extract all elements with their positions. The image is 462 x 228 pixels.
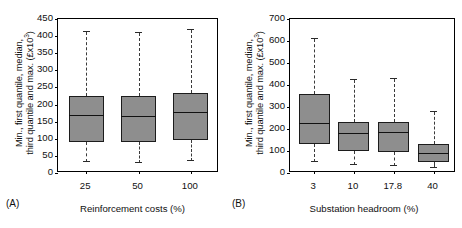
y-axis-tick-label: 250 — [37, 81, 53, 91]
y-axis-tick-mark — [287, 151, 290, 152]
y-axis-tick-mark — [287, 19, 290, 20]
x-axis-tick-mark — [191, 171, 192, 174]
panel-label: (B) — [232, 199, 245, 209]
whisker-upper — [354, 80, 355, 122]
boxplot-100 — [173, 17, 208, 171]
y-axis-tick-label: 600 — [269, 35, 285, 45]
whisker-cap-max — [83, 31, 90, 32]
x-axis-tick-label: 100 — [165, 181, 215, 191]
boxplot-17.8 — [378, 17, 409, 171]
y-axis-tick-mark — [55, 105, 58, 106]
boxplot-3 — [299, 17, 330, 171]
whisker-upper — [394, 79, 395, 122]
y-axis-tick-mark — [55, 87, 58, 88]
box-iqr — [299, 94, 330, 144]
x-axis-tick-mark — [394, 171, 395, 174]
plot-area — [289, 18, 455, 172]
boxplot-10 — [338, 17, 369, 171]
x-axis-tick-mark — [139, 171, 140, 174]
y-axis-tick-label: 0 — [280, 167, 285, 177]
y-axis-tick-mark — [55, 173, 58, 174]
median-line — [299, 123, 330, 124]
whisker-cap-max — [311, 38, 318, 39]
whisker-lower — [314, 144, 315, 162]
whisker-upper — [191, 30, 192, 93]
y-axis-tick-mark — [287, 129, 290, 130]
whisker-lower — [394, 152, 395, 167]
median-line — [173, 112, 208, 113]
y-axis-tick-label: 0 — [48, 167, 53, 177]
whisker-cap-min — [311, 161, 318, 162]
x-axis-tick-mark — [434, 171, 435, 174]
y-axis-title-line1: Min., first quantile, median, — [14, 39, 24, 147]
y-axis-tick-mark — [55, 36, 58, 37]
box-iqr — [338, 122, 369, 152]
y-axis-tick-label: 700 — [269, 13, 285, 23]
whisker-cap-min — [390, 165, 397, 166]
y-axis-tick-label: 100 — [37, 133, 53, 143]
whisker-cap-max — [135, 32, 142, 33]
y-axis-tick-label: 300 — [269, 101, 285, 111]
y-axis-tick-label: 400 — [37, 30, 53, 40]
whisker-upper — [314, 39, 315, 94]
y-axis-tick-mark — [55, 70, 58, 71]
x-axis-tick-mark — [314, 171, 315, 174]
x-axis-title: Reinforcement costs (%) — [40, 203, 225, 214]
median-line — [418, 153, 449, 154]
y-axis-tick-labels: 7006005004003002001000 — [260, 18, 285, 172]
x-axis-tick-mark — [354, 171, 355, 174]
box-iqr — [69, 96, 104, 142]
whisker-cap-min — [83, 161, 90, 162]
whisker-lower — [86, 142, 87, 163]
median-line — [338, 133, 369, 134]
y-axis-tick-label: 200 — [37, 99, 53, 109]
whisker-lower — [354, 151, 355, 165]
whisker-cap-min — [430, 167, 437, 168]
y-axis-tick-label: 300 — [37, 64, 53, 74]
panel-a: Min., first quantile, median,third quant… — [0, 0, 231, 228]
boxplot-40 — [418, 17, 449, 171]
x-axis-tick-mark — [86, 171, 87, 174]
y-axis-tick-mark — [55, 53, 58, 54]
whisker-cap-max — [187, 29, 194, 30]
boxplot-25 — [69, 17, 104, 171]
y-axis-tick-label: 50 — [42, 150, 53, 160]
y-axis-tick-mark — [55, 122, 58, 123]
y-axis-tick-mark — [55, 156, 58, 157]
y-axis-tick-mark — [287, 63, 290, 64]
y-axis-tick-label: 350 — [37, 47, 53, 57]
y-axis-tick-label: 400 — [269, 79, 285, 89]
whisker-cap-min — [187, 160, 194, 161]
whisker-cap-min — [135, 162, 142, 163]
whisker-lower — [139, 142, 140, 164]
y-axis-tick-mark — [55, 19, 58, 20]
y-axis-tick-label: 150 — [37, 116, 53, 126]
boxplot-figure: Min., first quantile, median,third quant… — [0, 0, 462, 228]
y-axis-tick-label: 450 — [37, 13, 53, 23]
box-iqr — [378, 122, 409, 152]
whisker-upper — [86, 32, 87, 96]
y-axis-tick-mark — [287, 107, 290, 108]
x-axis-title: Substation headroom (%) — [269, 203, 459, 214]
x-axis-tick-label: 50 — [113, 181, 163, 191]
y-axis-tick-mark — [287, 173, 290, 174]
panel-b: Min., first quantile, median,third quant… — [231, 0, 462, 228]
whisker-lower — [191, 140, 192, 161]
whisker-upper — [434, 112, 435, 143]
y-axis-tick-mark — [55, 139, 58, 140]
boxplot-50 — [121, 17, 156, 171]
median-line — [378, 132, 409, 133]
y-axis-tick-labels: 450400350300250200150100500 — [28, 18, 53, 172]
plot-area — [57, 18, 218, 172]
y-axis-title-line1: Min., first quantile, median, — [244, 39, 254, 147]
median-line — [121, 116, 156, 117]
x-axis-tick-label: 40 — [408, 181, 458, 191]
whisker-cap-max — [390, 78, 397, 79]
whisker-cap-max — [430, 111, 437, 112]
y-axis-tick-label: 100 — [269, 145, 285, 155]
y-axis-tick-mark — [287, 85, 290, 86]
median-line — [69, 115, 104, 116]
y-axis-tick-label: 500 — [269, 57, 285, 67]
whisker-upper — [139, 33, 140, 95]
y-axis-tick-mark — [287, 41, 290, 42]
